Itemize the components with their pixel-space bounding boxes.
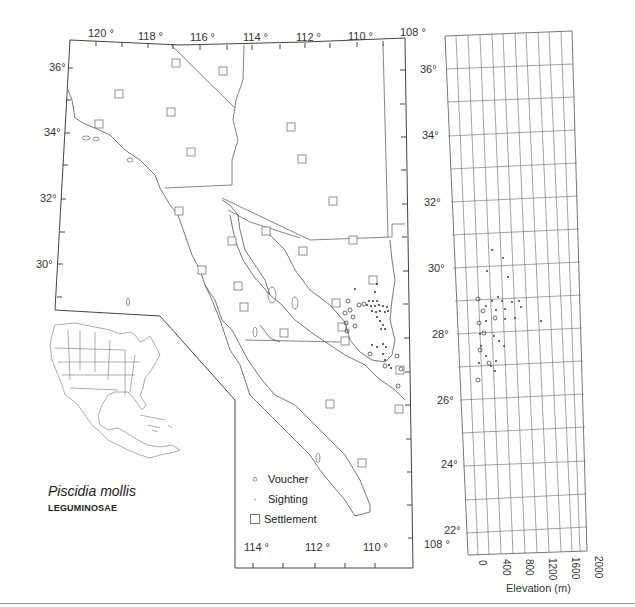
- elevation-axis-label: Elevation (m): [506, 582, 571, 594]
- lat-label-left-30: 30°: [36, 258, 53, 270]
- legend-label-sighting: Sighting: [268, 493, 308, 505]
- inset-north-america: [50, 323, 180, 458]
- elev-tick-400: 400: [501, 559, 512, 576]
- species-name: Piscidia mollis: [48, 483, 136, 499]
- settlement-square-icon: [250, 514, 260, 524]
- elevation-sightings: [478, 249, 542, 372]
- lon-label-top-112: 112 °: [296, 31, 321, 43]
- page-divider: [0, 603, 635, 604]
- lat-label-right-34: 34°: [422, 129, 439, 141]
- lon-label-bottom-114: 114 °: [244, 541, 269, 553]
- lat-label-right-28: 28°: [432, 328, 449, 340]
- top-ticks: [96, 41, 383, 50]
- elev-tick-1200: 1200: [547, 558, 558, 580]
- lat-label-right-30: 30°: [428, 262, 445, 274]
- elevation-grid-verticals: [456, 31, 580, 555]
- lat-label-right-32: 32°: [424, 196, 441, 208]
- legend-label-voucher: Voucher: [268, 473, 308, 485]
- lon-label-bottom-108: 108 °: [424, 538, 450, 550]
- sighting-markers: [354, 283, 392, 369]
- elev-tick-2000: 2000: [593, 556, 604, 578]
- elevation-grid: [445, 31, 587, 555]
- legend-item-voucher: ○ Voucher: [248, 469, 317, 489]
- lon-label-bottom-112: 112 °: [305, 541, 330, 553]
- left-ticks: [57, 68, 73, 297]
- voucher-circle-icon: ○: [248, 474, 262, 484]
- lat-label-right-22: 22°: [444, 524, 461, 536]
- sighting-dot-icon: ·: [248, 494, 262, 504]
- legend-item-sighting: · Sighting: [248, 489, 317, 509]
- settlement-markers: [95, 59, 404, 467]
- elev-tick-0: 0: [477, 560, 488, 566]
- lon-label-top-116: 116 °: [190, 31, 215, 43]
- coastline: [68, 90, 405, 516]
- elev-tick-1600: 1600: [570, 557, 581, 579]
- elev-tick-800: 800: [524, 559, 535, 576]
- lat-label-left-34: 34°: [44, 126, 61, 138]
- lat-label-right-24: 24°: [441, 458, 458, 470]
- lat-label-right-26: 26°: [437, 394, 454, 406]
- lat-label-left-32: 32°: [40, 192, 57, 204]
- lat-label-right-36: 36°: [420, 63, 437, 75]
- lat-label-left-36: 36°: [49, 61, 66, 73]
- legend: ○ Voucher · Sighting Settlement: [248, 469, 317, 529]
- map-canvas: [0, 0, 635, 607]
- islands: [82, 136, 320, 463]
- bottom-ticks: [253, 563, 375, 568]
- lon-label-top-120: 120 °: [88, 27, 114, 39]
- legend-label-settlement: Settlement: [264, 513, 317, 525]
- lon-label-bottom-110: 110 °: [363, 541, 388, 553]
- lon-label-top-118: 118 °: [138, 30, 163, 42]
- state-boundaries: [165, 44, 405, 342]
- species-family: LEGUMINOSAE: [48, 503, 117, 513]
- legend-item-settlement: Settlement: [248, 509, 317, 529]
- lon-label-top-110: 110 °: [348, 30, 373, 42]
- lon-label-top-114: 114 °: [243, 31, 268, 43]
- lon-label-top-108: 108 °: [400, 26, 426, 38]
